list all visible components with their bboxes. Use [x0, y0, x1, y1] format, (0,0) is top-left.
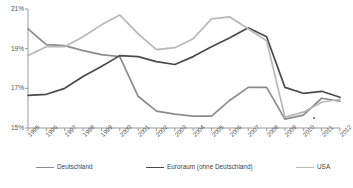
- y-axis-tick-label: 21%: [2, 5, 24, 12]
- legend-item-deutschland[interactable]: Deutschland: [36, 163, 93, 171]
- legend-swatch-usa: [296, 167, 314, 168]
- legend-swatch-deutschland: [36, 167, 54, 168]
- legend-item-euroraum[interactable]: Euroraum (ohne Deutschland): [146, 163, 253, 171]
- y-axis-tick-label: 19%: [2, 45, 24, 52]
- legend-label-euroraum: Euroraum (ohne Deutschland): [167, 163, 253, 171]
- legend-label-deutschland: Deutschland: [57, 163, 93, 171]
- stray-marker-dot: [313, 117, 315, 119]
- data-series-group: [28, 15, 340, 119]
- y-axis-tick-label: 15%: [2, 124, 24, 131]
- legend-label-usa: USA: [317, 163, 330, 171]
- y-axis-tick-label: 17%: [2, 84, 24, 91]
- legend-swatch-euroraum: [146, 167, 164, 168]
- chart-legend: Deutschland Euroraum (ohne Deutschland) …: [0, 163, 346, 185]
- plot-area: 15%17%19%21% 199519961997199819992000200…: [0, 0, 346, 140]
- line-chart-svg: [0, 0, 346, 140]
- series-line-usa: [28, 15, 340, 117]
- series-line-euroraum-ohne-deutschland: [28, 28, 340, 97]
- legend-item-usa[interactable]: USA: [296, 163, 330, 171]
